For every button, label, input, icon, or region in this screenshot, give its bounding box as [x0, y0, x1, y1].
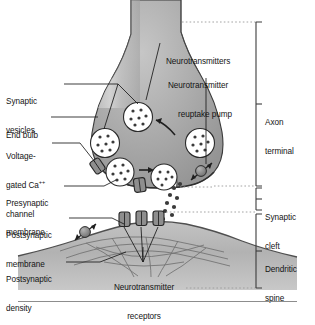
synaptic-vesicle	[91, 129, 120, 158]
bracket-label-dendritic-spine: Dendritic spine	[265, 246, 297, 323]
bracket-axon-terminal-line1: Axon	[265, 118, 294, 128]
label-postsynaptic-membrane-line1: Postsynaptic	[6, 231, 52, 241]
label-presynaptic-membrane-line1: Presynaptic	[6, 199, 48, 209]
label-reuptake-pump-line2: reuptake pump	[168, 110, 232, 120]
label-neurotransmitter-reuptake-pump: Neurotransmitter reuptake pump	[168, 62, 232, 139]
figure-bottom-rule	[18, 301, 297, 302]
neurotransmitter-receptor-icon	[136, 211, 147, 226]
voltage-gated-ca-channel-icon	[133, 177, 146, 192]
label-reuptake-pump-line1: Neurotransmitter	[168, 81, 232, 91]
bracket-dendritic-spine-line2: spine	[265, 294, 297, 304]
neurotransmitter-receptor-icon	[153, 211, 164, 226]
bracket-synaptic-cleft-line1: Synaptic	[265, 213, 296, 223]
label-postsynaptic-density: Postsynaptic density	[6, 256, 52, 325]
synaptic-vesicle	[124, 103, 153, 132]
bracket-label-axon-terminal: Axon terminal	[265, 99, 294, 176]
synaptic-vesicle	[106, 158, 134, 186]
label-voltage-gated-line1: Voltage-	[6, 152, 45, 162]
bracket-dendritic-spine-line1: Dendritic	[265, 265, 297, 275]
label-receptors-line2: receptors	[101, 312, 187, 322]
synaptic-vesicle	[151, 164, 177, 190]
bracket-axon-terminal-line2: terminal	[265, 147, 294, 157]
label-neurotransmitter-receptors: Neurotransmitter receptors	[101, 264, 187, 325]
label-receptors-line1: Neurotransmitter	[101, 283, 187, 293]
label-synaptic-vesicles-line1: Synaptic	[6, 97, 37, 107]
label-postsynaptic-density-line2: density	[6, 304, 52, 314]
neurotransmitter-receptor-icon	[119, 212, 130, 227]
label-postsynaptic-density-line1: Postsynaptic	[6, 275, 52, 285]
